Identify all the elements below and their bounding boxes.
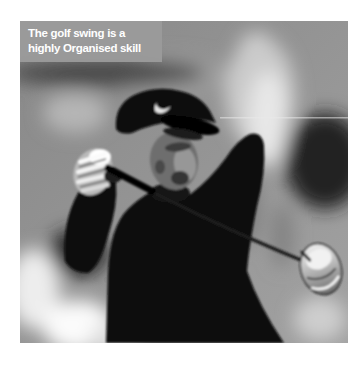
lens-flare-line [220,117,348,119]
photo-illustration [20,21,348,343]
caption-line-1: The golf swing is a [28,26,162,41]
golf-swing-photo: The golf swing is a highly Organised ski… [20,21,348,343]
caption-banner: The golf swing is a highly Organised ski… [20,21,162,62]
page: The golf swing is a highly Organised ski… [0,0,349,367]
caption-line-2: highly Organised skill [28,41,162,56]
